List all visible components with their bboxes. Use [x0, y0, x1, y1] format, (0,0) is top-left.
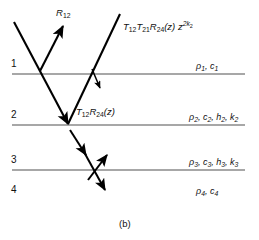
- downgoing-ray-layer3: [70, 130, 105, 190]
- ray-label-transmission-up: T12T21R24(z) z2k2: [123, 22, 193, 32]
- z-exponent-sub: 2: [190, 23, 193, 29]
- ray-label-r12: R12: [56, 8, 70, 18]
- figure-caption: (b): [119, 218, 131, 229]
- k-3: k: [230, 157, 235, 167]
- layer-number-3: 3: [11, 155, 17, 165]
- incident-ray: [14, 22, 68, 124]
- rho-1-sub: 1: [201, 65, 205, 72]
- layer-properties-3: ρ3, c3, h3, k3: [189, 158, 238, 167]
- layer-properties-2: ρ2, c2, h2, k2: [189, 113, 238, 122]
- r12-sub: 12: [63, 12, 71, 19]
- r24-sub: 24: [157, 26, 165, 33]
- z-exponent: 2k2: [183, 20, 193, 27]
- c-2-sub: 2: [207, 116, 211, 123]
- downgoing-ray-segment-upper: [70, 130, 86, 155]
- t12-down-sub: 12: [82, 111, 90, 118]
- t12-sub: 12: [129, 26, 137, 33]
- k-3-sub: 3: [235, 161, 239, 168]
- k-2: k: [230, 112, 235, 122]
- c-1-sub: 1: [214, 65, 218, 72]
- layer-number-1: 1: [11, 59, 17, 69]
- layer-properties-4: ρ4, c4: [196, 187, 218, 196]
- rho-2-sub: 2: [194, 116, 198, 123]
- r24-down-arg: (z): [104, 106, 115, 117]
- r12-base: R: [56, 7, 63, 18]
- r24-down-sub: 24: [96, 111, 104, 118]
- t12-base: T: [123, 21, 129, 32]
- r24-arg: (z): [164, 21, 175, 32]
- rho-4-sub: 4: [201, 190, 205, 197]
- layer-properties-1: ρ1, c1: [196, 62, 218, 71]
- rho-3-sub: 3: [194, 161, 198, 168]
- r24-base: R: [150, 21, 157, 32]
- reflected-ray-segment: [40, 26, 63, 71]
- h-2-sub: 2: [221, 116, 225, 123]
- z-exponent-base: 2k: [183, 20, 190, 27]
- t12-down-base: T: [76, 106, 82, 117]
- c-4-sub: 4: [214, 190, 218, 197]
- layer-number-4: 4: [11, 185, 17, 195]
- ray-label-transmission-down: T12R24(z): [76, 107, 115, 117]
- layer-number-2: 2: [11, 110, 17, 120]
- k-2-sub: 2: [235, 116, 239, 123]
- h-3-sub: 3: [221, 161, 225, 168]
- interface1-transmission-stub: [92, 69, 100, 88]
- reflected-ray-r12: [40, 26, 63, 71]
- t21-sub: 21: [142, 26, 150, 33]
- c-3-sub: 3: [207, 161, 211, 168]
- incident-ray-segment: [14, 22, 68, 124]
